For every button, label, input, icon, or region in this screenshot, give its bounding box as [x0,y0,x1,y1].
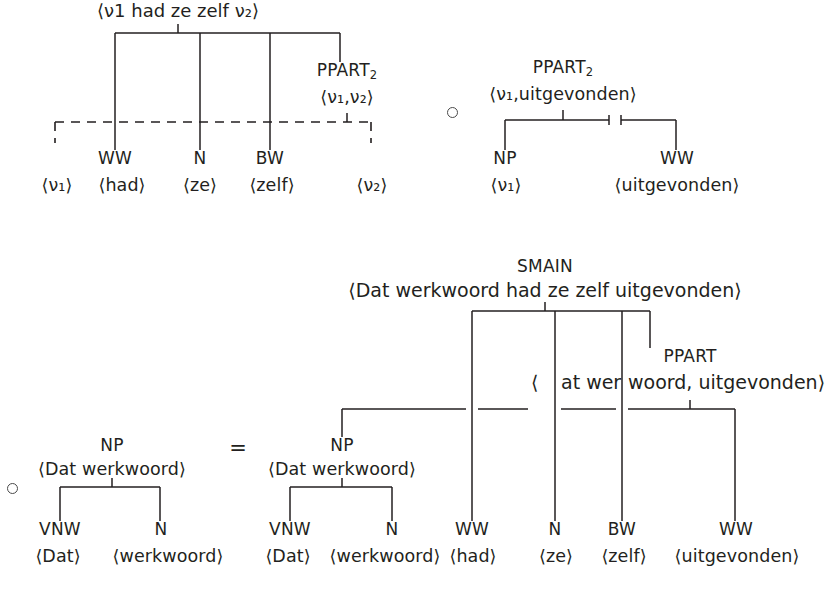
res-leaf-category-ww1: WW [455,521,489,539]
tr-leaf-yield-ww: ⟨uitgevonden⟩ [615,176,740,194]
bl-leaf-yield-werkwoord: ⟨werkwoord⟩ [113,547,224,565]
tl-ppart-yield: ⟨ν₁,ν₂⟩ [320,88,374,106]
res-leaf-category-ww2: WW [719,521,753,539]
res-np-category: NP [330,437,353,455]
tr-leaf-category-ww: WW [660,150,694,168]
tr-root-yield: ⟨ν₁,uitgevonden⟩ [489,85,636,103]
diagram-canvas: ⟨ν1 had ze zelf ν₂⟩ PPART2 ⟨ν₁,ν₂⟩ WW N … [0,0,833,597]
tl-leaf-yield-had: ⟨had⟩ [98,176,145,194]
tl-leaf-category-bw: BW [256,150,284,168]
res-root-yield: ⟨Dat werkwoord had ze zelf uitgevonden⟩ [348,281,741,301]
tl-leaf-category-n: N [194,150,207,168]
res-leaf-category-n2: N [549,521,562,539]
tr-root-category: PPART2 [533,59,594,78]
res-leaf-category-n1: N [386,521,399,539]
res-leaf-yield-had: ⟨had⟩ [449,547,496,565]
res-leaf-yield-ze: ⟨ze⟩ [539,547,573,565]
bl-leaf-category-vnw: VNW [39,521,81,539]
res-np-yield: ⟨Dat werkwoord⟩ [268,460,416,478]
tl-leaf-yield-zelf: ⟨zelf⟩ [249,176,294,194]
compose-operator-top [447,107,458,118]
tl-root-yield: ⟨ν1 had ze zelf ν₂⟩ [97,2,259,21]
tl-leaf-yield-ze: ⟨ze⟩ [183,176,217,194]
tl-leaf-category-ww: WW [98,150,132,168]
res-ppart-yield-rest: woord, uitgevonden⟩ [628,373,825,393]
res-leaf-category-vnw: VNW [269,521,311,539]
bl-leaf-category-n: N [155,521,168,539]
equals-operator: = [229,437,247,459]
tr-leaf-category-np: NP [493,150,516,168]
res-root-category: SMAIN [517,258,573,276]
res-leaf-yield-dat: ⟨Dat⟩ [265,547,310,565]
res-leaf-yield-zelf: ⟨zelf⟩ [601,547,646,565]
tl-leaf-yield-v1: ⟨ν₁⟩ [42,176,73,194]
compose-operator-bottom [7,483,18,494]
res-ppart-yield-open: ⟨ [531,373,538,393]
bl-leaf-yield-dat: ⟨Dat⟩ [35,547,80,565]
tl-leaf-yield-v2: ⟨ν₂⟩ [357,176,388,194]
bl-root-yield: ⟨Dat werkwoord⟩ [38,460,186,478]
res-leaf-yield-uitgevonden: ⟨uitgevonden⟩ [675,547,800,565]
res-leaf-yield-werkwoord: ⟨werkwoord⟩ [330,547,441,565]
tr-leaf-yield-np: ⟨ν₁⟩ [491,176,522,194]
res-ppart-yield-mid: at wer [561,373,621,393]
tl-placeholder-frame [55,122,371,143]
bl-root-category: NP [100,437,123,455]
res-leaf-category-bw: BW [608,521,636,539]
res-ppart-category: PPART [663,348,716,366]
tl-ppart-category: PPART2 [317,62,378,81]
